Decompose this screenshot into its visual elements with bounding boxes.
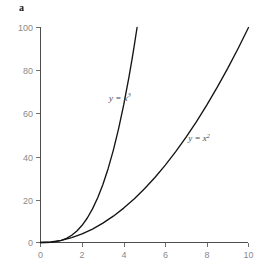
- curve-quadratic: [41, 28, 249, 243]
- x-axis-tick-labels: 0 2 4 6 8 10: [38, 250, 254, 260]
- curve-label-cubic: y = x3: [108, 91, 131, 102]
- y-tick-label: 60: [23, 109, 33, 119]
- curve-label-quadratic: y = x2: [187, 132, 210, 143]
- curve-label-quadratic-exponent: 2: [207, 132, 210, 139]
- y-axis-ticks: [36, 28, 40, 243]
- x-axis-ticks: [41, 243, 249, 247]
- curve-label-cubic-text: y = x: [108, 93, 128, 103]
- curve-label-quadratic-text: y = x: [187, 133, 207, 143]
- y-tick-label: 20: [23, 196, 33, 206]
- line-chart: 100 80 60 40 20 0 0 2 4 6 8 10: [0, 0, 264, 272]
- x-tick-label: 4: [121, 250, 126, 260]
- curve-label-cubic-exponent: 3: [127, 91, 131, 98]
- y-axis-tick-labels: 100 80 60 40 20 0: [18, 23, 33, 248]
- y-tick-label: 100: [18, 23, 33, 33]
- x-tick-label: 6: [163, 250, 168, 260]
- x-tick-label: 0: [38, 250, 43, 260]
- figure-panel: a 100 80 60 40 20 0: [0, 0, 264, 272]
- x-tick-label: 8: [204, 250, 209, 260]
- x-tick-label: 10: [243, 250, 253, 260]
- x-tick-label: 2: [79, 250, 84, 260]
- y-tick-label: 80: [23, 66, 33, 76]
- curve-cubic: [41, 28, 138, 243]
- y-tick-label: 40: [23, 153, 33, 163]
- y-tick-label: 0: [28, 238, 33, 248]
